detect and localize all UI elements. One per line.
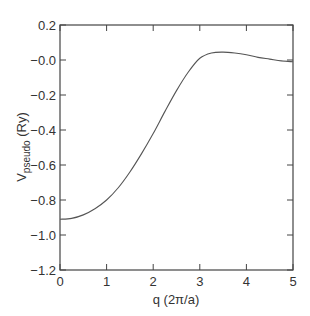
chart: 012345 0.2−0.0−0.2−0.4−0.6−0.8−1.0−1.2 q… (0, 0, 310, 316)
x-tick-labels: 012345 (56, 274, 296, 289)
y-axis-label-unit: (Ry) (14, 112, 29, 140)
y-axis-label-sub: pseudo (21, 140, 32, 173)
x-tick-label: 1 (103, 274, 110, 289)
x-tick-label: 3 (196, 274, 203, 289)
x-tick-label: 4 (243, 274, 250, 289)
x-tick-label: 0 (56, 274, 63, 289)
y-tick-label: −1.2 (30, 263, 56, 278)
data-line (60, 52, 293, 219)
y-tick-label: −1.0 (30, 228, 56, 243)
axis-ticks (60, 25, 293, 270)
y-tick-label: 0.2 (38, 18, 56, 33)
x-tick-label: 2 (150, 274, 157, 289)
y-axis-label: Vpseudo (Ry) (14, 112, 32, 182)
x-axis-label: q (2π/a) (153, 292, 200, 307)
y-tick-label: −0.2 (30, 88, 56, 103)
y-tick-label: −0.0 (30, 53, 56, 68)
y-tick-label: −0.6 (30, 158, 56, 173)
plot-frame (60, 25, 293, 270)
y-tick-label: −0.8 (30, 193, 56, 208)
y-tick-label: −0.4 (30, 123, 56, 138)
x-tick-label: 5 (289, 274, 296, 289)
y-tick-labels: 0.2−0.0−0.2−0.4−0.6−0.8−1.0−1.2 (30, 18, 56, 278)
y-axis-label-main: V (14, 173, 29, 182)
